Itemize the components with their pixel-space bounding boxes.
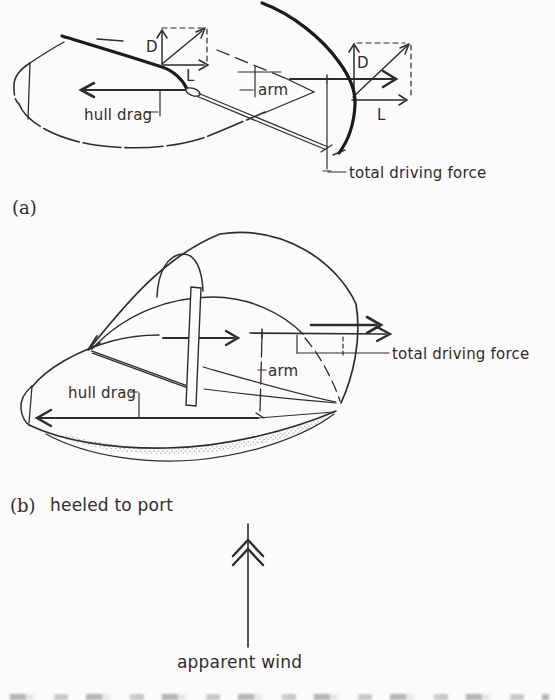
bow-stem-line (29, 386, 32, 423)
hull-sheer-dash (97, 39, 123, 41)
lift-label-left: L (186, 67, 195, 85)
cut-off-caption-remnant (10, 694, 549, 700)
total-driving-force-arrows-b (250, 317, 390, 356)
scanned-figure-page: D L D L hull drag arm total driving forc… (0, 0, 555, 700)
sail-eased-curve (62, 36, 187, 89)
arm-label-b: arm (268, 362, 298, 380)
sail-heeled-outline (90, 232, 358, 403)
total-driving-force-label-a: total driving force (349, 164, 486, 182)
arm-dimension-b (256, 335, 266, 418)
hull-drag-label-a: hull drag (84, 106, 152, 124)
drag-label-right: D (357, 54, 369, 72)
resultant-vector-left (162, 31, 202, 64)
sailing-forces-diagram: D L D L hull drag arm total driving forc… (0, 0, 555, 700)
drag-label-left: D (146, 38, 158, 56)
force-parallelogram-right (349, 43, 411, 105)
lift-label-right: L (377, 106, 386, 124)
force-parallelogram-left (157, 28, 208, 70)
panel-b-heeled-view (21, 232, 390, 461)
keel-line (46, 414, 334, 461)
drive-arrow-left-b (163, 331, 238, 345)
hull-drag-label-b: hull drag (68, 384, 136, 402)
total-driving-force-label-b: total driving force (392, 345, 529, 363)
mast (186, 287, 201, 406)
panel-a-plan-view (14, 3, 411, 172)
apparent-wind-label: apparent wind (177, 652, 302, 672)
hull-quarter-dashed-line (217, 50, 285, 78)
sheer-line (32, 335, 159, 387)
arm-dimension-line (260, 335, 262, 414)
sails-heeled (88, 232, 358, 403)
sail-leech-dashed (305, 338, 340, 401)
gooseneck-ellipse (185, 86, 201, 98)
boom-double-line-a (198, 94, 333, 153)
arm-label-a: arm (258, 81, 288, 99)
hull-top-edge (30, 42, 64, 63)
panel-a-caption: (a) (12, 197, 37, 218)
panel-b-caption-text: heeled to port (50, 495, 173, 515)
underbody-stipple (62, 419, 322, 454)
panel-b-caption-marker: (b) (10, 495, 36, 516)
apparent-wind-symbol (233, 524, 263, 647)
bow-stem-line (28, 63, 30, 119)
